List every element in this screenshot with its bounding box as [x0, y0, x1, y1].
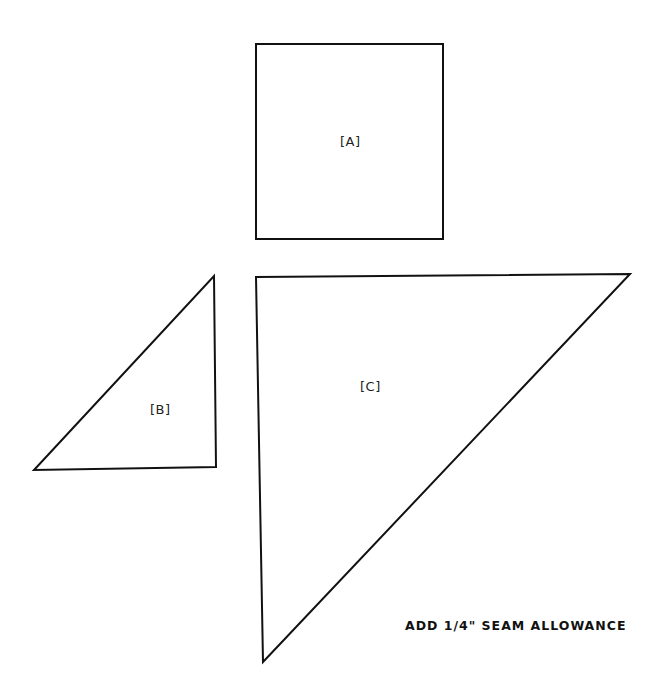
piece-c-triangle [256, 274, 630, 662]
piece-b-label: [B] [150, 402, 171, 417]
piece-a-label: [A] [340, 134, 361, 149]
piece-c-label: [C] [360, 379, 381, 394]
piece-b-triangle [34, 276, 216, 470]
seam-allowance-note: ADD 1/4" SEAM ALLOWANCE [405, 618, 626, 633]
pattern-canvas [0, 0, 661, 700]
